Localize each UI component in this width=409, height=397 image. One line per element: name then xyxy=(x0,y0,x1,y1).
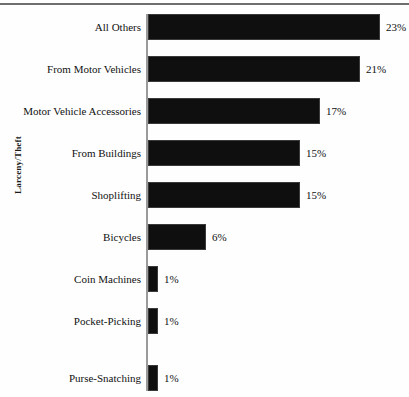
category-label: Motor Vehicle Accessories xyxy=(0,98,141,124)
category-label: Pocket-Picking xyxy=(0,308,141,334)
bar-row: Purse-Snatching 1% xyxy=(0,365,409,391)
bar xyxy=(148,56,360,82)
bar-row: Motor Vehicle Accessories 17% xyxy=(0,98,409,124)
bar xyxy=(148,224,206,250)
bar-chart-plot: All Others 23% From Motor Vehicles 21% M… xyxy=(0,0,409,397)
bar xyxy=(148,140,300,166)
bar-row: Shoplifting 15% xyxy=(0,182,409,208)
bar-value-label: 6% xyxy=(212,224,227,250)
bar-row: From Motor Vehicles 21% xyxy=(0,56,409,82)
category-label: All Others xyxy=(0,14,141,40)
bar xyxy=(148,182,300,208)
bar-value-label: 1% xyxy=(164,266,179,292)
bar-row: From Buildings 15% xyxy=(0,140,409,166)
bar-row: All Others 23% xyxy=(0,14,409,40)
bar xyxy=(148,266,158,292)
bar-value-label: 1% xyxy=(164,308,179,334)
bar-row: Pocket-Picking 1% xyxy=(0,308,409,334)
bar-row: Bicycles 6% xyxy=(0,224,409,250)
bar-value-label: 21% xyxy=(366,56,386,82)
category-label: From Buildings xyxy=(0,140,141,166)
bar-value-label: 17% xyxy=(326,98,346,124)
category-label: Coin Machines xyxy=(0,266,141,292)
bar xyxy=(148,308,158,334)
bar-value-label: 23% xyxy=(386,14,406,40)
bar-row: Coin Machines 1% xyxy=(0,266,409,292)
category-label: Bicycles xyxy=(0,224,141,250)
bar xyxy=(148,14,380,40)
category-label: From Motor Vehicles xyxy=(0,56,141,82)
bar-value-label: 15% xyxy=(306,182,326,208)
bar xyxy=(148,98,320,124)
category-label: Purse-Snatching xyxy=(0,365,141,391)
bar-value-label: 1% xyxy=(164,365,179,391)
bar-value-label: 15% xyxy=(306,140,326,166)
category-label: Shoplifting xyxy=(0,182,141,208)
bar xyxy=(148,365,158,391)
